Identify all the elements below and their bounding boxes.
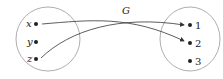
element-2-dot — [188, 41, 192, 45]
element-1-label: 1 — [195, 20, 201, 31]
arrow-x-to-2 — [42, 21, 184, 41]
element-x-label: x — [26, 18, 32, 29]
element-3-label: 3 — [195, 56, 201, 67]
element-z-label: z — [26, 53, 33, 64]
element-3-dot — [188, 59, 192, 63]
function-diagram: x y z 1 2 3 G — [0, 0, 223, 79]
element-1-dot — [188, 23, 192, 27]
domain-set-circle — [16, 7, 80, 71]
function-label: G — [122, 5, 130, 16]
element-z-dot — [34, 57, 38, 61]
element-y-dot — [34, 40, 38, 44]
element-y-label: y — [26, 36, 33, 47]
element-2-label: 2 — [195, 38, 201, 49]
element-x-dot — [34, 22, 38, 26]
